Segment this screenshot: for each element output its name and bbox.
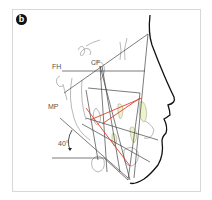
angle-arrow (68, 148, 72, 151)
cephalometric-tracing (0, 0, 212, 200)
skull-outline (56, 38, 154, 172)
label-angle: 40° (58, 140, 69, 147)
label-mp: MP (48, 103, 59, 110)
label-fh: FH (52, 63, 61, 70)
label-cf: CF (91, 59, 100, 66)
soft-tissue-profile (130, 15, 174, 184)
panel-label-badge: b (16, 14, 27, 25)
